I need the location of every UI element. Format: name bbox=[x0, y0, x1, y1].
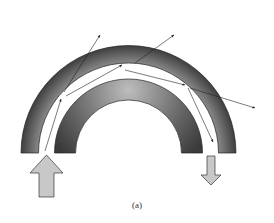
light-guide-diagram bbox=[0, 0, 274, 223]
output-arrow-down-icon bbox=[201, 156, 221, 185]
figure-caption: (a) bbox=[0, 200, 274, 210]
input-arrow-up-icon bbox=[30, 155, 63, 197]
